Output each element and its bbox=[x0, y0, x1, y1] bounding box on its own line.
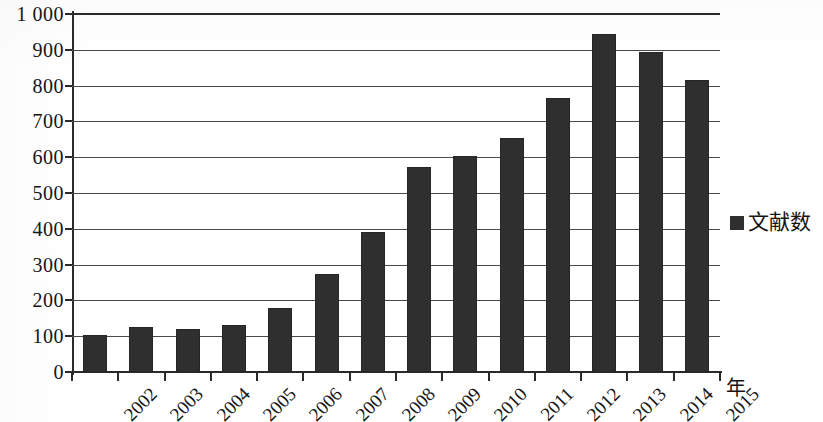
bar bbox=[685, 80, 709, 372]
x-tick-mark bbox=[626, 373, 628, 381]
x-tick-mark bbox=[164, 373, 166, 381]
x-tick-mark bbox=[395, 373, 397, 381]
x-tick-mark bbox=[441, 373, 443, 381]
bar bbox=[83, 335, 107, 372]
y-tick-label: 700 bbox=[33, 111, 65, 131]
bar-chart-figure: 1 0009008007006005004003002001000 200220… bbox=[0, 0, 823, 422]
x-tick-mark bbox=[256, 373, 258, 381]
x-tick-label: 2002 bbox=[120, 384, 160, 422]
y-axis-tick-labels: 1 0009008007006005004003002001000 bbox=[0, 14, 64, 372]
bar bbox=[407, 167, 431, 372]
y-tick-mark bbox=[65, 192, 72, 194]
x-tick-mark bbox=[302, 373, 304, 381]
y-tick-label: 0 bbox=[54, 362, 65, 382]
y-tick-mark bbox=[65, 13, 72, 15]
x-tick-mark bbox=[534, 373, 536, 381]
y-tick-mark bbox=[65, 120, 72, 122]
bar bbox=[129, 327, 153, 372]
x-tick-label: 2005 bbox=[259, 384, 299, 422]
x-tick-mark bbox=[71, 373, 73, 381]
y-tick-label: 500 bbox=[33, 183, 65, 203]
bar bbox=[592, 34, 616, 372]
bar bbox=[176, 329, 200, 372]
x-tick-label: 2009 bbox=[444, 384, 484, 422]
y-tick-mark bbox=[65, 335, 72, 337]
x-tick-label: 2010 bbox=[491, 384, 531, 422]
y-tick-label: 600 bbox=[33, 147, 65, 167]
y-tick-label: 200 bbox=[33, 290, 65, 310]
y-tick-label: 100 bbox=[33, 326, 65, 346]
y-tick-mark bbox=[65, 264, 72, 266]
y-tick-label: 800 bbox=[33, 76, 65, 96]
x-tick-mark bbox=[349, 373, 351, 381]
x-axis-title: 年 bbox=[726, 378, 746, 398]
x-tick-label: 2012 bbox=[583, 384, 623, 422]
bar bbox=[500, 138, 524, 372]
bar bbox=[546, 98, 570, 372]
x-tick-mark bbox=[719, 373, 721, 381]
x-tick-label: 2014 bbox=[676, 384, 716, 422]
bars-layer bbox=[72, 14, 720, 372]
y-tick-label: 300 bbox=[33, 255, 65, 275]
x-tick-mark bbox=[117, 373, 119, 381]
x-tick-label: 2003 bbox=[167, 384, 207, 422]
x-tick-label: 2008 bbox=[398, 384, 438, 422]
y-tick-mark bbox=[65, 49, 72, 51]
y-tick-mark bbox=[65, 228, 72, 230]
x-tick-label: 2004 bbox=[213, 384, 253, 422]
x-tick-label: 2011 bbox=[537, 384, 577, 422]
y-tick-label: 400 bbox=[33, 219, 65, 239]
x-tick-label: 2006 bbox=[305, 384, 345, 422]
x-tick-label: 2007 bbox=[352, 384, 392, 422]
chart-legend: 文献数 bbox=[730, 212, 811, 233]
x-tick-mark bbox=[488, 373, 490, 381]
bar bbox=[315, 274, 339, 372]
y-tick-mark bbox=[65, 299, 72, 301]
x-tick-mark bbox=[673, 373, 675, 381]
x-tick-label: 2013 bbox=[629, 384, 669, 422]
bar bbox=[268, 308, 292, 372]
x-tick-mark bbox=[210, 373, 212, 381]
bar bbox=[639, 52, 663, 372]
y-tick-label: 1 000 bbox=[17, 4, 65, 24]
plot-area bbox=[72, 14, 720, 372]
y-tick-label: 900 bbox=[33, 40, 65, 60]
bar bbox=[453, 156, 477, 372]
y-tick-mark bbox=[65, 85, 72, 87]
legend-swatch-icon bbox=[730, 216, 744, 230]
legend-label: 文献数 bbox=[748, 212, 811, 233]
bar bbox=[361, 232, 385, 372]
y-tick-mark bbox=[65, 156, 72, 158]
bar bbox=[222, 325, 246, 372]
x-tick-mark bbox=[580, 373, 582, 381]
